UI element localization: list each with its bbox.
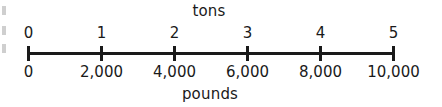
left-edge-artifact [2, 6, 6, 15]
number-line-figure: tons 012345 02,0004,0006,0008,00010,000 … [0, 0, 442, 107]
bottom-tick-label: 4,000 [153, 63, 196, 81]
tick-mark [392, 46, 395, 61]
top-tick-label: 4 [316, 24, 326, 42]
bottom-tick-label: 8,000 [299, 63, 342, 81]
axis-line [27, 52, 395, 55]
left-edge-artifact [2, 26, 6, 35]
top-tick-label: 3 [243, 24, 253, 42]
tick-mark [27, 46, 30, 61]
tick-mark [319, 46, 322, 61]
bottom-tick-label: 10,000 [367, 63, 420, 81]
top-tick-label: 0 [24, 24, 34, 42]
top-tick-label: 5 [389, 24, 399, 42]
bottom-tick-label: 2,000 [80, 63, 123, 81]
top-tick-label: 2 [170, 24, 180, 42]
tick-mark [173, 46, 176, 61]
bottom-tick-label: 0 [24, 63, 34, 81]
tick-mark [246, 46, 249, 61]
top-axis-title: tons [192, 2, 225, 20]
bottom-tick-label: 6,000 [226, 63, 269, 81]
left-edge-artifact [2, 44, 6, 53]
tick-mark [100, 46, 103, 61]
top-tick-label: 1 [97, 24, 107, 42]
bottom-axis-title: pounds [182, 85, 238, 103]
